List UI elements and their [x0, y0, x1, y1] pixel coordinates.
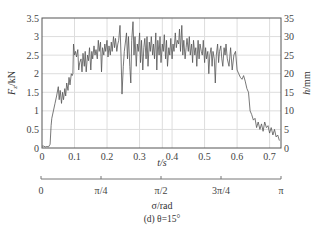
x-tick-label: 0.6 — [231, 151, 244, 162]
y-right-axis-label: h/mm — [301, 71, 312, 95]
x-tick-label: 0.2 — [101, 151, 114, 162]
y-right-tick-label: 35 — [284, 13, 294, 24]
secondary-x-tick-label: π — [278, 185, 283, 196]
y-right-tick-label: 15 — [284, 87, 294, 98]
svg-text:Fz/kN: Fz/kN — [6, 71, 19, 96]
secondary-x-tick-label: 0 — [39, 185, 44, 196]
data-series-fz — [42, 22, 279, 147]
y-right-tick-label: 20 — [284, 68, 294, 79]
x-tick-label: 0.3 — [133, 151, 146, 162]
secondary-x-tick-label: π/2 — [155, 185, 168, 196]
y-left-axis-label: Fz/kN — [6, 71, 19, 96]
x-tick-label: 0.4 — [166, 151, 179, 162]
x-tick-label: 0.1 — [68, 151, 81, 162]
plot-frame — [42, 18, 281, 148]
svg-text:h/mm: h/mm — [301, 71, 312, 95]
y-left-tick-label: 0.5 — [27, 124, 40, 135]
y-right-tick-label: 5 — [284, 124, 289, 135]
y-right-axis-ticks: 05101520253035 — [284, 13, 294, 154]
y-right-tick-label: 25 — [284, 50, 294, 61]
y-left-tick-label: 0 — [34, 143, 39, 154]
y-left-tick-label: 2.5 — [27, 50, 40, 61]
y-left-tick-label: 1 — [34, 105, 39, 116]
x-tick-label: 0.5 — [198, 151, 211, 162]
y-left-axis-ticks: 00.511.522.533.5 — [27, 13, 40, 154]
y-left-tick-label: 1.5 — [27, 87, 40, 98]
y-right-tick-label: 10 — [284, 105, 294, 116]
y-left-tick-label: 3.5 — [27, 13, 40, 24]
chart-figure: 00.10.20.30.40.50.60.7 00.511.522.533.5 … — [0, 0, 317, 235]
x-tick-label: 0 — [40, 151, 45, 162]
figure-caption: (d) θ=15° — [144, 214, 181, 225]
y-left-tick-label: 2 — [34, 68, 39, 79]
fz-line — [42, 22, 279, 147]
y-left-tick-label: 3 — [34, 31, 39, 42]
secondary-x-tick-label: π/4 — [95, 185, 108, 196]
x-tick-label: 0.7 — [263, 151, 276, 162]
grid-lines — [42, 18, 281, 148]
y-right-tick-label: 0 — [284, 143, 289, 154]
y-right-tick-label: 30 — [284, 31, 294, 42]
secondary-x-axis-label: σ/rad — [152, 200, 173, 211]
secondary-x-tick-label: 3π/4 — [212, 185, 230, 196]
x-axis-label: t/s — [157, 157, 167, 168]
